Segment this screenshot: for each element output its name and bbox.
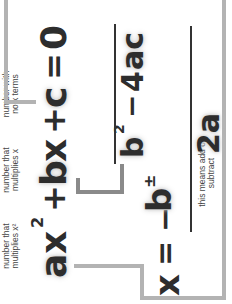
var-x: x xyxy=(36,231,72,254)
plus-sign: + xyxy=(38,107,70,134)
formula-x: x xyxy=(150,274,184,296)
formula-minus: − xyxy=(118,95,146,118)
connector-a xyxy=(74,264,144,268)
connector-a xyxy=(140,264,144,300)
equals-sign: = xyxy=(38,53,70,80)
formula-b: b xyxy=(142,188,176,212)
formula-equals: = xyxy=(150,241,180,266)
quadratic-formula-diagram: a x 2 + b x + c = 0 number that multipli… xyxy=(0,0,232,304)
coef-c: c xyxy=(36,87,72,108)
connector-a xyxy=(140,296,224,300)
sqrt-bar xyxy=(114,24,116,164)
formula-ac: ac xyxy=(118,32,148,70)
connector-b xyxy=(120,164,124,194)
plus-sign: + xyxy=(38,185,70,212)
connector-c xyxy=(6,100,36,104)
note-a: number that multiplies x² xyxy=(2,218,20,274)
zero: 0 xyxy=(36,25,72,50)
coef-a: a xyxy=(36,254,72,278)
plus-minus: ± xyxy=(142,175,158,188)
exponent-2: 2 xyxy=(30,217,46,228)
var-x: x xyxy=(36,139,72,162)
connector-b xyxy=(76,190,124,194)
formula-b-squared: b xyxy=(118,137,148,158)
formula-four: 4 xyxy=(118,71,148,92)
denominator-2a: 2a xyxy=(194,113,224,154)
connector-c-top xyxy=(4,0,8,104)
note-b: number that multiplies x xyxy=(2,142,20,198)
coef-b: b xyxy=(36,160,72,186)
